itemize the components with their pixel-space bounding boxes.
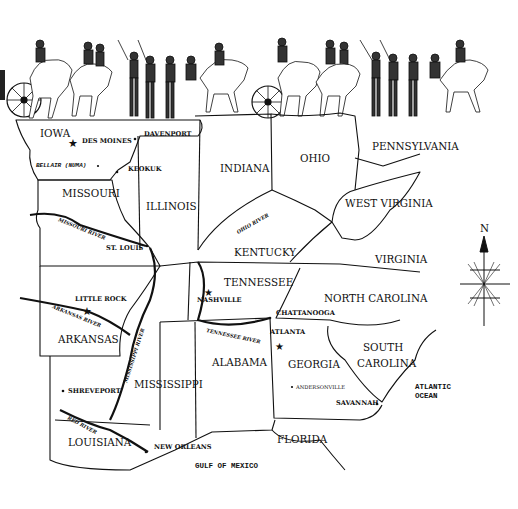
state-label-tennessee: TENNESSEE (224, 275, 293, 289)
city-dot-icon (97, 165, 99, 167)
city-dot-icon (145, 451, 148, 454)
river-label-arkansas: ARKANSAS RIVER (51, 303, 102, 328)
state-label-mississippi: MISSISSIPPI (134, 377, 203, 391)
city-label-des-moines: DES MOINES (82, 137, 132, 145)
city-label-new-orleans: NEW ORLEANS (154, 443, 212, 451)
city-label-little-rock: LITTLE ROCK (75, 295, 127, 303)
city-label-keokuk: KEOKUK (128, 165, 162, 173)
state-label-ohio: OHIO (300, 151, 330, 165)
state-label-georgia: GEORGIA (288, 357, 340, 371)
state-label-south-carolina-line2: CAROLINA (357, 356, 417, 370)
state-label-arkansas: ARKANSAS (57, 332, 119, 346)
city-label-atlanta: ATLANTA (269, 328, 306, 336)
river-label-missouri: MISSOURI RIVER (57, 216, 107, 241)
water-label-atlantic-line2: OCEAN (415, 392, 438, 400)
state-label-west-virginia: WEST VIRGINIA (345, 196, 433, 210)
water-labels: ATLANTIC OCEAN GULF OF MEXICO (195, 383, 452, 470)
state-label-indiana: INDIANA (220, 161, 270, 175)
city-label-shreveport: SHREVEPORT (68, 387, 121, 395)
compass-rose: N (460, 221, 510, 326)
state-label-alabama: ALABAMA (211, 355, 267, 369)
state-label-kentucky: KENTUCKY (234, 245, 296, 259)
cavalry-illustration (0, 38, 488, 118)
city-dot-icon (116, 171, 119, 174)
city-dot-icon (62, 390, 65, 393)
city-label-st-louis: ST. LOUIS (106, 244, 144, 252)
state-label-illinois: ILLINOIS (146, 199, 197, 213)
north-arrow-icon (480, 236, 488, 252)
city-label-davenport: DAVENPORT (144, 130, 192, 138)
city-label-nashville: NASHVILLE (197, 296, 242, 304)
state-label-missouri: MISSOURI (62, 186, 120, 200)
city-label-savannah: SAVANNAH (336, 399, 379, 407)
state-label-louisiana: LOUISIANA (68, 435, 132, 449)
state-labels: IOWA MISSOURI ILLINOIS INDIANA OHIO PENN… (40, 126, 459, 449)
state-label-virginia: VIRGINIA (374, 252, 428, 266)
water-label-atlantic-line1: ATLANTIC (415, 383, 452, 391)
capital-star-icon: ★ (68, 137, 78, 149)
capital-star-icon: ★ (275, 341, 284, 352)
state-label-florida: FLORIDA (277, 432, 328, 446)
place-label-andersonville: ANDERSONVILLE (295, 384, 345, 390)
river-label-ohio: OHIO RIVER (236, 212, 270, 235)
state-label-iowa: IOWA (40, 126, 71, 140)
city-dot-icon (269, 317, 272, 320)
state-label-north-carolina: NORTH CAROLINA (324, 291, 428, 305)
map-canvas: N IOWA MISSOURI ILLINOIS INDIANA OHIO PE… (0, 0, 518, 509)
place-label-bellair-numa: BELLAIR (NUMA) (36, 162, 86, 169)
river-label-mississippi: MISSISSIPPI RIVER (122, 328, 146, 385)
city-label-chattanooga: CHATTANOOGA (276, 309, 336, 317)
city-dot-icon (291, 386, 293, 388)
city-dot-icon (134, 138, 137, 141)
compass-north-label: N (480, 221, 489, 235)
water-label-gulf-of-mexico: GULF OF MEXICO (195, 462, 259, 470)
river-label-tennessee: TENNESSEE RIVER (206, 327, 261, 344)
state-label-south-carolina-line1: SOUTH (363, 340, 403, 354)
state-label-pennsylvania: PENNSYLVANIA (372, 139, 459, 153)
city-dot-icon (146, 245, 149, 248)
